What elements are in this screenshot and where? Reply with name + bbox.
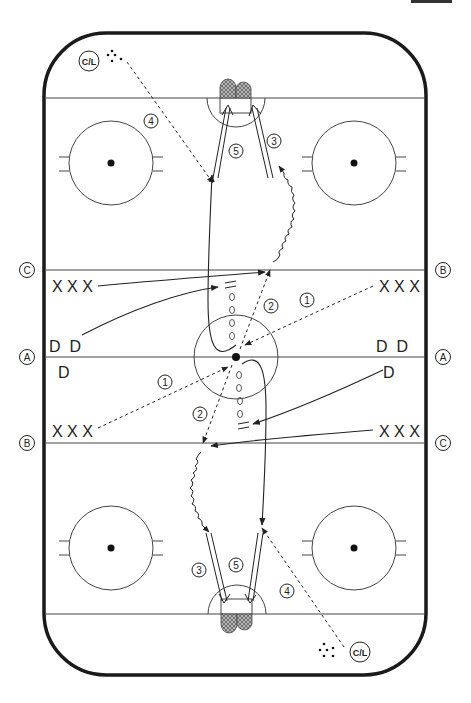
coach-bottom: C/L: [350, 642, 370, 662]
side-label-right-B: B: [436, 263, 451, 278]
defense-right-single: D: [383, 364, 395, 381]
svg-text:A: A: [440, 352, 447, 363]
svg-text:A: A: [24, 352, 31, 363]
svg-text:4: 4: [284, 586, 290, 597]
svg-text:1: 1: [304, 295, 310, 306]
shot-arrow-top-5: [213, 105, 233, 178]
pass-arrow-bottom-4: [262, 528, 344, 647]
faceoff-circle-top-left: [59, 121, 163, 205]
cones-upper: [230, 294, 235, 340]
step-number-upper-2: 2: [264, 299, 278, 313]
svg-text:C/L: C/L: [82, 57, 97, 67]
step-number-top-4: 4: [144, 114, 158, 128]
step-number-bottom-3: 3: [192, 563, 206, 577]
pucks-bottom: [319, 643, 335, 658]
skate-with-puck-bottom: [190, 452, 209, 532]
pucks-top: [107, 50, 123, 63]
skate-with-puck-top: [273, 166, 295, 262]
skate-center-top: [208, 175, 236, 351]
svg-text:4: 4: [148, 116, 154, 127]
svg-text:5: 5: [233, 560, 239, 571]
svg-text:1: 1: [162, 377, 168, 388]
defense-left-single: D: [58, 364, 70, 381]
step-number-top-5: 5: [229, 144, 243, 158]
step-number-bottom-4: 4: [280, 584, 294, 598]
shot-arrow-bottom-5: [245, 533, 263, 603]
faceoff-circle-bottom-left: [59, 506, 163, 590]
center-faceoff-dot: [232, 353, 240, 361]
svg-text:3: 3: [196, 565, 202, 576]
side-label-right-A: A: [436, 350, 451, 365]
step-number-lower-1: 1: [158, 375, 172, 389]
svg-text:C/L: C/L: [353, 648, 368, 658]
side-label-right-C: C: [436, 436, 451, 451]
skate-forward-top-left: [98, 272, 265, 286]
forwards-bottom-left: X X X: [52, 423, 93, 440]
faceoff-circle-bottom-right: [302, 506, 406, 590]
defense-right-pair: D D: [376, 338, 408, 355]
step-number-lower-2: 2: [193, 407, 207, 421]
puck-marks-upper: [225, 281, 236, 288]
step-number-bottom-5: 5: [229, 558, 243, 572]
net-top: [207, 79, 265, 127]
svg-text:B: B: [440, 265, 447, 276]
cones-lower: [237, 372, 243, 418]
svg-text:C: C: [439, 438, 446, 449]
svg-text:5: 5: [233, 146, 239, 157]
faceoff-circle-top-right: [302, 121, 406, 205]
svg-text:C: C: [23, 265, 30, 276]
net-bottom: [208, 585, 266, 633]
forwards-top-left: X X X: [52, 278, 93, 295]
svg-text:2: 2: [268, 301, 274, 312]
forwards-top-right: X X X: [379, 278, 420, 295]
defense-left-pair: D D: [49, 338, 81, 355]
svg-text:2: 2: [197, 409, 203, 420]
puck-marks-lower: [238, 422, 249, 429]
side-label-left-C: C: [20, 263, 35, 278]
forwards-bottom-right: X X X: [379, 423, 420, 440]
svg-text:3: 3: [271, 136, 277, 147]
hockey-rink-diagram: C A B B A C X X X X X X X X X X X X D D …: [0, 0, 471, 703]
step-number-top-3: 3: [267, 134, 281, 148]
skate-defense-top-left: [82, 287, 218, 335]
skate-forward-bottom-right: [211, 430, 373, 446]
coach-top: C/L: [79, 51, 99, 71]
side-label-left-B: B: [20, 436, 35, 451]
step-number-upper-1: 1: [300, 293, 314, 307]
svg-text:B: B: [24, 438, 31, 449]
side-label-left-A: A: [20, 350, 35, 365]
pass-arrow-top-4: [127, 62, 213, 183]
